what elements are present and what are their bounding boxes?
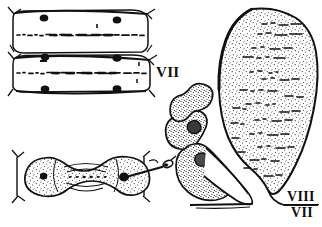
figure-canvas: VII VIII VII [0, 0, 322, 227]
label-segment-vii-left: VII [156, 65, 179, 80]
label-segment-viii-right: VIII [287, 190, 315, 204]
baseline-bar [190, 204, 252, 205]
segment-upper [8, 7, 155, 53]
illustration-svg [0, 0, 322, 227]
label-segment-vii-right: VII [291, 206, 313, 220]
